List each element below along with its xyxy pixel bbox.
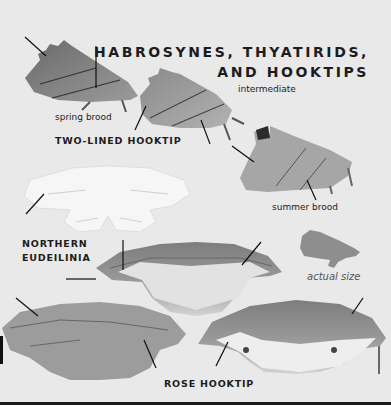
field-guide-page: HABROSYNES, THYATIRIDS, AND HOOKTIPS spr…: [0, 0, 391, 404]
moth-rose-hooktip-left: [2, 302, 186, 380]
page-edge-mark: [0, 336, 3, 364]
actual-size-silhouette: [300, 230, 360, 268]
species-two-lined-hooktip: TWO-LINED HOOKTIP: [55, 135, 181, 146]
species-northern-eudeilinia-line-2: EUDEILINIA: [22, 252, 91, 263]
species-rose-hooktip: ROSE HOOKTIP: [164, 378, 254, 389]
moth-northern-eudeilinia: [24, 166, 190, 232]
label-spring-brood: spring brood: [55, 112, 112, 122]
moth-rose-hooktip-right: [198, 300, 386, 374]
label-summer-brood: summer brood: [272, 202, 338, 212]
page-bottom-rule: [0, 402, 391, 405]
species-northern-eudeilinia-line-1: NORTHERN: [22, 238, 88, 249]
moth-summer-brood: [240, 126, 352, 194]
page-title-line-1: HABROSYNES, THYATIRIDS,: [94, 42, 369, 62]
page-title-line-2: AND HOOKTIPS: [94, 62, 369, 82]
label-actual-size: actual size: [307, 271, 360, 282]
page-title: HABROSYNES, THYATIRIDS, AND HOOKTIPS: [94, 42, 369, 82]
label-intermediate: intermediate: [238, 84, 296, 94]
